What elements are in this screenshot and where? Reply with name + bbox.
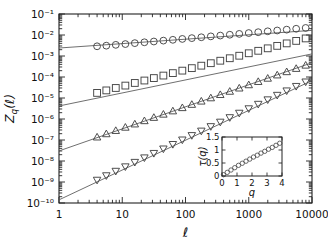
inset-y-axis-title: τ(q)	[197, 146, 208, 166]
data-marker-square	[207, 60, 214, 67]
inset-frame	[222, 137, 282, 176]
y-tick-label: 10⁻⁴	[31, 71, 54, 83]
data-marker-circle	[255, 29, 262, 36]
x-tick-label: 100	[175, 208, 195, 220]
inset-y-tick-label: 1.5	[206, 132, 220, 142]
inset-panel: 0123400.511.5qτ(q)	[197, 132, 285, 198]
data-marker-square	[293, 37, 300, 44]
data-marker-circle	[207, 33, 214, 40]
inset-x-axis-title: q	[249, 187, 255, 198]
data-marker-square	[226, 55, 233, 62]
data-marker-square	[274, 42, 281, 49]
inset-x-tick-label: 2	[249, 178, 254, 188]
figure-panel: 11010010001000010⁻¹10⁻²10⁻³10⁻⁴10⁻⁵10⁻⁶1…	[0, 0, 328, 242]
data-marker-square	[255, 47, 262, 54]
data-marker-square	[179, 67, 186, 74]
inset-x-tick-label: 1	[234, 178, 239, 188]
inset-y-tick-label: 0	[214, 171, 219, 181]
y-tick-label: 10⁻⁷	[31, 134, 54, 146]
x-tick-label: 10000	[295, 208, 328, 220]
y-tick-label: 10⁻¹⁰	[27, 197, 54, 209]
data-marker-circle	[245, 30, 252, 37]
data-marker-square	[198, 62, 205, 69]
data-marker-square	[245, 50, 252, 57]
data-marker-circle	[226, 31, 233, 38]
y-tick-label: 10⁻³	[31, 50, 54, 62]
data-marker-circle	[103, 42, 110, 49]
data-marker-circle	[198, 34, 205, 41]
data-marker-circle	[188, 35, 195, 42]
data-marker-square	[264, 45, 271, 52]
data-marker-circle	[122, 41, 129, 48]
y-tick-label: 10⁻⁵	[31, 92, 54, 104]
data-marker-square	[188, 65, 195, 72]
log-log-partition-function-plot: 11010010001000010⁻¹10⁻²10⁻³10⁻⁴10⁻⁵10⁻⁶1…	[0, 0, 328, 242]
data-marker-square	[141, 77, 148, 84]
inset-x-tick-label: 0	[219, 178, 224, 188]
data-marker-square	[236, 52, 243, 59]
y-axis-title-text: Zq(ℓ)	[2, 94, 19, 124]
data-marker-circle	[112, 41, 119, 48]
y-axis-title: Zq(ℓ)	[2, 94, 19, 124]
inset-x-tick-label: 4	[279, 178, 284, 188]
x-axis-title: ℓ	[182, 225, 188, 240]
data-marker-square	[150, 75, 157, 82]
data-marker-square	[302, 35, 309, 42]
data-marker-circle	[94, 43, 101, 50]
data-marker-square	[131, 80, 138, 87]
y-tick-label: 10⁻²	[31, 29, 54, 41]
y-tick-label: 10⁻¹	[31, 8, 54, 20]
y-tick-label: 10⁻⁸	[31, 155, 54, 167]
data-marker-circle	[217, 32, 224, 39]
data-marker-square	[283, 40, 290, 47]
inset-y-axis-title-text: τ(q)	[197, 146, 208, 166]
data-marker-square	[160, 72, 167, 79]
y-tick-label: 10⁻⁶	[31, 113, 54, 125]
data-marker-square	[169, 70, 176, 77]
inset-x-tick-label: 3	[264, 178, 269, 188]
data-marker-square	[112, 85, 119, 92]
data-marker-square	[103, 87, 110, 94]
data-marker-square	[94, 89, 101, 96]
x-tick-label: 1	[56, 208, 63, 220]
data-marker-circle	[302, 25, 309, 32]
inset-y-tick-label: 1	[214, 145, 219, 155]
data-marker-circle	[236, 30, 243, 37]
data-marker-square	[217, 57, 224, 64]
y-tick-label: 10⁻⁹	[31, 176, 54, 188]
x-tick-label: 1000	[235, 208, 262, 220]
x-tick-label: 10	[116, 208, 129, 220]
data-marker-square	[122, 82, 129, 89]
y-axis-arg: (ℓ)	[2, 94, 17, 109]
